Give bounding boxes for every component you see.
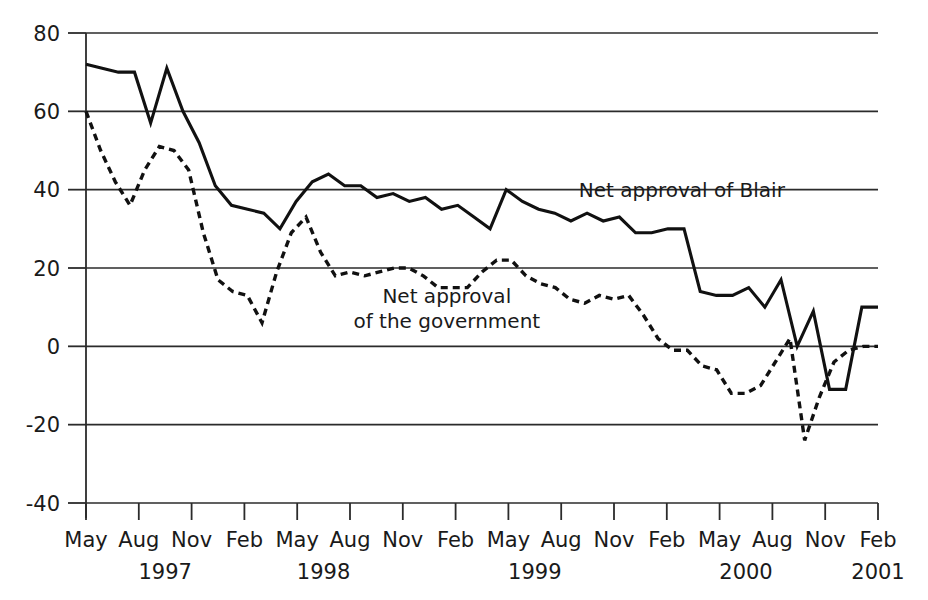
x-tick-label-year: 1997 [138,560,191,584]
x-tick-label-year: 1999 [508,560,561,584]
series-line-blair [86,64,878,389]
line-chart: -40-20020406080 MayAugNovFebMayAugNovFeb… [0,0,928,600]
y-axis: -40-20020406080 [26,22,86,519]
x-tick-label-year: 2001 [851,560,904,584]
y-tick-label: -40 [26,492,60,516]
x-axis: MayAugNovFebMayAugNovFebMayAugNovFebMayA… [64,503,904,584]
x-tick-label-month: May [487,528,530,552]
y-tick-label: -20 [26,413,60,437]
series-lines [86,64,878,440]
x-tick-label-month: Aug [752,528,793,552]
y-tick-label: 0 [47,335,60,359]
x-tick-label-month: May [698,528,741,552]
annotation-government-line1: Net approval [382,284,511,308]
chart-container: -40-20020406080 MayAugNovFebMayAugNovFeb… [0,0,928,600]
x-tick-label-year: 2000 [719,560,772,584]
x-tick-label-month: Nov [594,528,635,552]
x-tick-label-month: Aug [329,528,370,552]
x-tick-label-month: Feb [859,528,896,552]
x-tick-label-month: Aug [541,528,582,552]
x-tick-label-month: Feb [437,528,474,552]
x-tick-label-month: May [275,528,318,552]
gridlines [86,33,878,503]
x-tick-label-month: May [64,528,107,552]
x-tick-label-month: Aug [118,528,159,552]
x-tick-label-month: Nov [171,528,212,552]
y-tick-label: 80 [33,22,60,46]
x-tick-label-month: Feb [226,528,263,552]
annotation-government-line2: of the government [353,309,540,333]
y-tick-label: 40 [33,178,60,202]
y-tick-label: 60 [33,100,60,124]
x-tick-label-month: Feb [648,528,685,552]
x-tick-label-month: Nov [382,528,423,552]
annotation-blair: Net approval of Blair [579,178,786,202]
y-tick-label: 20 [33,257,60,281]
x-tick-label-year: 1998 [297,560,350,584]
x-tick-label-month: Nov [805,528,846,552]
series-annotations: Net approval of BlairNet approvalof the … [353,178,785,334]
